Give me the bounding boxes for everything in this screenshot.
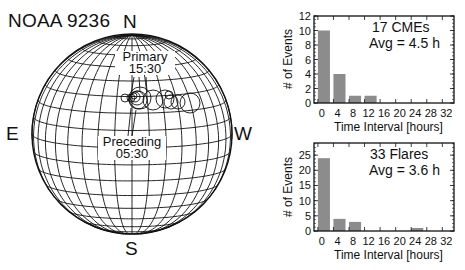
histogram-bar xyxy=(318,31,330,104)
y-tick-label: 12 xyxy=(299,10,311,22)
y-tick-label: 5 xyxy=(305,210,311,222)
histogram-bar xyxy=(365,96,377,103)
flare-ylabel: # of Events xyxy=(281,147,295,227)
x-tick-label: 16 xyxy=(378,107,390,119)
y-tick-label: 10 xyxy=(299,25,311,37)
y-tick-label: 15 xyxy=(299,179,311,191)
x-tick-label: 24 xyxy=(409,107,421,119)
y-tick-label: 20 xyxy=(299,164,311,176)
x-tick-label: 0 xyxy=(319,107,325,119)
x-tick-label: 8 xyxy=(350,235,356,247)
y-tick-label: 0 xyxy=(305,225,311,237)
y-tick-label: 10 xyxy=(299,195,311,207)
y-tick-label: 0 xyxy=(305,97,311,109)
x-tick-label: 0 xyxy=(319,235,325,247)
x-tick-label: 12 xyxy=(362,107,374,119)
histogram-bar xyxy=(333,74,345,103)
histogram-bar xyxy=(333,219,345,231)
cme-title: 17 CMEs xyxy=(372,19,430,35)
histogram-bar xyxy=(349,222,361,231)
flare-xlabel: Time Interval [hours] xyxy=(334,248,443,262)
y-tick-label: 2 xyxy=(305,83,311,95)
flare-avg: Avg = 3.6 h xyxy=(369,162,440,178)
x-tick-label: 28 xyxy=(425,235,437,247)
x-tick-label: 32 xyxy=(440,107,452,119)
cme-xlabel: Time Interval [hours] xyxy=(334,120,443,134)
x-tick-label: 16 xyxy=(378,235,390,247)
y-tick-label: 6 xyxy=(305,54,311,66)
x-tick-label: 4 xyxy=(334,107,340,119)
histogram-bar xyxy=(318,158,330,231)
x-tick-label: 28 xyxy=(425,107,437,119)
y-tick-label: 25 xyxy=(299,149,311,161)
histogram-bar xyxy=(349,96,361,103)
x-tick-label: 4 xyxy=(334,235,340,247)
x-tick-label: 20 xyxy=(394,107,406,119)
cme-ylabel: # of Events xyxy=(281,19,295,99)
cme-avg: Avg = 4.5 h xyxy=(369,35,440,51)
x-tick-label: 8 xyxy=(350,107,356,119)
x-tick-label: 12 xyxy=(362,235,374,247)
y-tick-label: 4 xyxy=(305,68,311,80)
x-tick-label: 32 xyxy=(440,235,452,247)
x-tick-label: 20 xyxy=(394,235,406,247)
x-tick-label: 24 xyxy=(409,235,421,247)
y-tick-label: 8 xyxy=(305,39,311,51)
flare-title: 33 Flares xyxy=(370,146,428,162)
